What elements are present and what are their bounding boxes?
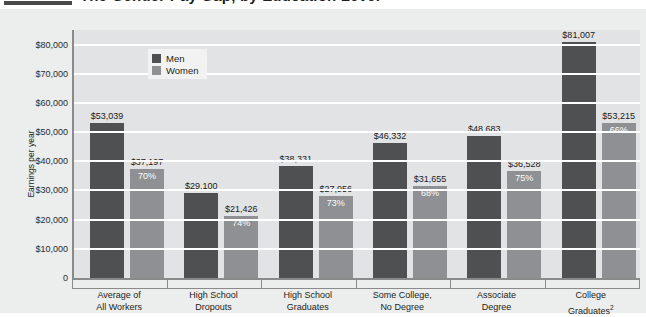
x-tick-cell: [357, 278, 452, 288]
gridline: [74, 189, 640, 191]
legend-swatch-women-icon: [152, 66, 161, 75]
y-tick-label: $10,000: [12, 244, 68, 254]
bar-men[interactable]: $48,683: [467, 136, 501, 278]
y-axis-ticks: 0$10,000$20,000$30,000$40,000$50,000$60,…: [8, 9, 68, 313]
bar-ratio-label: 70%: [130, 171, 164, 181]
category-line-2: No Degree: [355, 302, 449, 314]
y-tick-label: 0: [12, 273, 68, 283]
legend: Men Women: [148, 49, 207, 79]
bar-women[interactable]: $37,19770%: [130, 169, 164, 278]
bar-group: $81,007$53,21566%: [546, 30, 640, 278]
category-line-1: High School: [166, 290, 260, 302]
gridline: [74, 219, 640, 221]
x-axis-category-labels: Average ofAll WorkersHigh SchoolDropouts…: [72, 290, 638, 317]
category-line-2: Dropouts: [166, 302, 260, 314]
title-rule: [4, 1, 72, 5]
bar-value-label: $53,215: [601, 111, 636, 121]
y-tick-label: $40,000: [12, 156, 68, 166]
bar-group: $38,331$27,95673%: [263, 30, 357, 278]
x-category-label: AssociateDegree: [449, 290, 543, 317]
category-line-2: Graduates2: [544, 302, 638, 317]
chart-card: Earnings per year 0$10,000$20,000$30,000…: [0, 9, 646, 313]
x-category-label: Average ofAll Workers: [72, 290, 166, 317]
category-line-1: Some College,: [355, 290, 449, 302]
gridline: [74, 248, 640, 250]
bar-value-label: $31,655: [413, 174, 448, 184]
x-category-label: High SchoolGraduates: [261, 290, 355, 317]
category-line-2: Degree: [449, 302, 543, 314]
category-line-2: All Workers: [72, 302, 166, 314]
legend-item-men: Men: [152, 52, 199, 64]
gridline: [74, 160, 640, 162]
x-tick-cell: [262, 278, 357, 288]
bar-men[interactable]: $53,039: [90, 123, 124, 278]
legend-label-men: Men: [166, 53, 184, 64]
bar-men[interactable]: $38,331: [279, 166, 313, 278]
bar-women[interactable]: $27,95673%: [319, 196, 353, 278]
bar-group: $46,332$31,65568%: [357, 30, 451, 278]
x-category-label: Some College,No Degree: [355, 290, 449, 317]
bar-women[interactable]: $36,52875%: [507, 171, 541, 278]
x-category-label: High SchoolDropouts: [166, 290, 260, 317]
bar-value-label: $21,426: [224, 204, 259, 214]
legend-item-women: Women: [152, 64, 199, 76]
y-tick-label: $50,000: [12, 127, 68, 137]
category-line-1: Associate: [449, 290, 543, 302]
bar-value-label: $81,007: [561, 30, 596, 40]
bar-value-label: $38,331: [278, 154, 313, 164]
x-tick-cell: [168, 278, 263, 288]
y-tick-label: $60,000: [12, 98, 68, 108]
y-tick-label: $80,000: [12, 40, 68, 50]
category-line-1: College: [544, 290, 638, 302]
bar-ratio-label: 73%: [319, 198, 353, 208]
gridline: [74, 44, 640, 46]
x-tick-cell: [451, 278, 546, 288]
bar-men[interactable]: $29,100: [184, 193, 218, 278]
x-tick-cell: [72, 278, 168, 288]
bar-women[interactable]: $53,21566%: [602, 123, 636, 278]
bar-women[interactable]: $21,42674%: [224, 216, 258, 279]
legend-label-women: Women: [166, 65, 199, 76]
category-line-2: Graduates: [261, 302, 355, 314]
title-strip: The Gender Pay Gap, by Education Level: [0, 0, 646, 9]
bar-men[interactable]: $46,332: [373, 143, 407, 278]
chart-title: The Gender Pay Gap, by Education Level: [80, 0, 380, 4]
category-footnote-marker: 2: [610, 304, 614, 311]
category-line-1: High School: [261, 290, 355, 302]
gridline: [74, 102, 640, 104]
bar-ratio-label: 75%: [507, 173, 541, 183]
x-category-label: CollegeGraduates2: [544, 290, 638, 317]
y-tick-label: $20,000: [12, 215, 68, 225]
bar-women[interactable]: $31,65568%: [413, 186, 447, 278]
y-tick-label: $70,000: [12, 69, 68, 79]
y-tick-label: $30,000: [12, 185, 68, 195]
bar-ratio-label: 66%: [602, 125, 636, 135]
bar-value-label: $37,197: [130, 157, 165, 167]
bar-value-label: $53,039: [90, 111, 125, 121]
legend-swatch-men-icon: [152, 54, 161, 63]
x-tick-cell: [546, 278, 641, 288]
category-line-1: Average of: [72, 290, 166, 302]
x-axis-tick-band: [72, 278, 640, 289]
gridline: [74, 131, 640, 133]
bar-group: $48,683$36,52875%: [451, 30, 545, 278]
